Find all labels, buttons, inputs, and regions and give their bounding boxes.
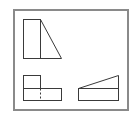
front-view <box>24 20 62 59</box>
side-view-wedge <box>79 76 119 89</box>
top-view <box>24 76 62 101</box>
drawing-frame <box>14 10 128 110</box>
side-view-rectangle <box>79 89 119 101</box>
top-view-lower-rectangle <box>24 89 62 101</box>
side-view <box>79 76 119 101</box>
top-view-upper-square <box>24 76 41 89</box>
front-view-triangle <box>41 20 62 59</box>
front-view-rectangle <box>24 20 41 59</box>
orthographic-drawing <box>0 0 138 122</box>
